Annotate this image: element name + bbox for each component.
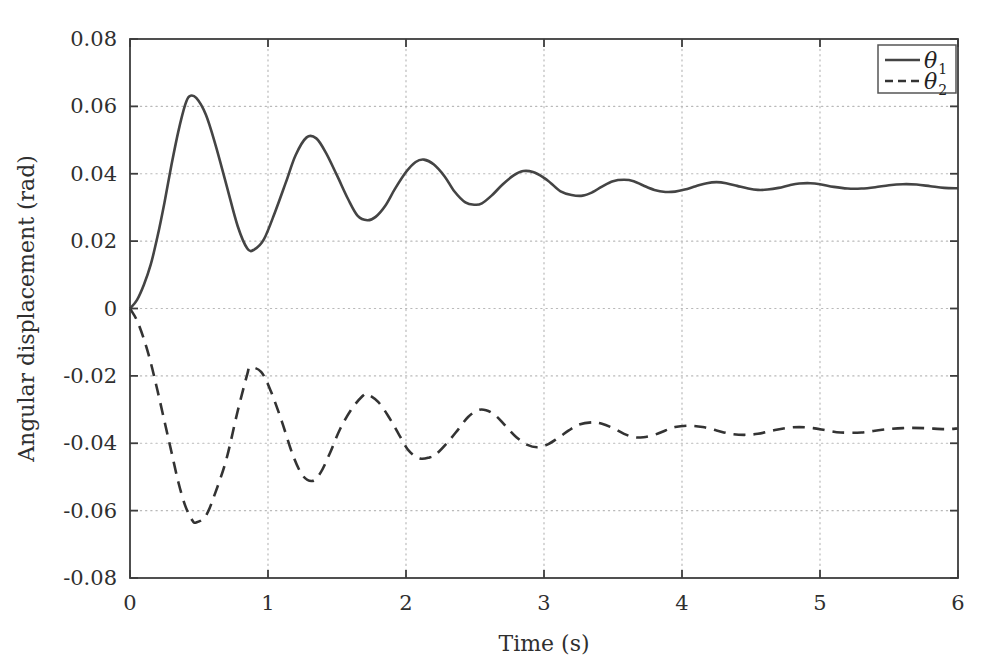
x-tick-label: 6 — [951, 591, 964, 615]
x-tick-label: 1 — [261, 591, 274, 615]
gridlines — [130, 39, 958, 578]
y-tick-label: 0.04 — [70, 162, 117, 186]
x-tick-label: 5 — [813, 591, 826, 615]
tick-labels: 0.080.060.040.020-0.02-0.04-0.06-0.08012… — [63, 27, 965, 615]
y-tick-label: -0.02 — [63, 364, 117, 388]
legend: θ1θ2 — [878, 45, 956, 98]
y-tick-label: 0.06 — [70, 94, 117, 118]
y-tick-label: -0.04 — [63, 431, 117, 455]
y-tick-label: 0.08 — [70, 27, 117, 51]
legend-subscript: 2 — [938, 82, 947, 98]
y-tick-label: 0.02 — [70, 229, 117, 253]
x-axis-title: Time (s) — [498, 631, 589, 656]
x-tick-label: 0 — [123, 591, 136, 615]
x-tick-label: 3 — [537, 591, 550, 615]
y-tick-label: -0.08 — [63, 566, 117, 590]
y-tick-label: -0.06 — [63, 499, 117, 523]
x-tick-label: 2 — [399, 591, 412, 615]
legend-subscript: 1 — [938, 61, 947, 77]
line-chart: 0.080.060.040.020-0.02-0.04-0.06-0.08012… — [0, 0, 998, 672]
y-tick-label: 0 — [104, 297, 117, 321]
y-axis-title: Angular displacement (rad) — [14, 155, 39, 463]
chart-figure: 0.080.060.040.020-0.02-0.04-0.06-0.08012… — [0, 0, 998, 672]
x-tick-label: 4 — [675, 591, 688, 615]
